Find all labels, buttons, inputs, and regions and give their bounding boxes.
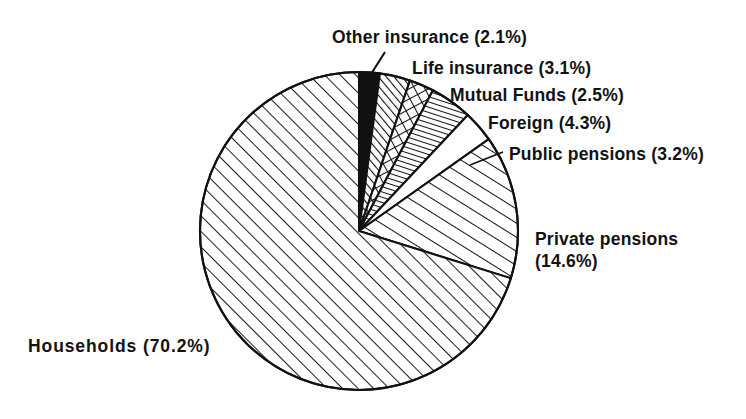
slice-label-foreign: Foreign (4.3%)	[488, 112, 611, 134]
pie-chart: Other insurance (2.1%) Life insurance (3…	[0, 0, 746, 419]
slice-label-mutual-funds: Mutual Funds (2.5%)	[450, 84, 624, 106]
slice-label-other-insurance: Other insurance (2.1%)	[332, 26, 527, 48]
slice-label-private-pensions-line2: (14.6%)	[535, 250, 678, 272]
pie-slices	[200, 72, 518, 390]
slice-label-private-pensions-line1: Private pensions	[535, 228, 678, 250]
slice-label-households: Households (70.2%)	[28, 335, 210, 357]
slice-label-private-pensions: Private pensions (14.6%)	[535, 228, 678, 273]
slice-label-life-insurance: Life insurance (3.1%)	[412, 57, 591, 79]
slice-label-public-pensions: Public pensions (3.2%)	[509, 143, 704, 165]
